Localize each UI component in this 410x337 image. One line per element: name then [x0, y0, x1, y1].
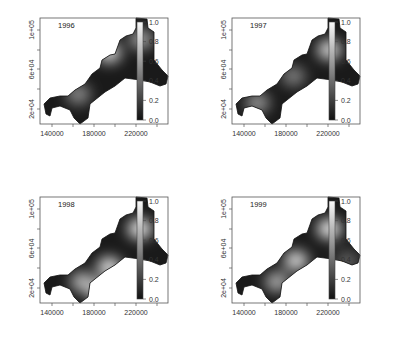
colorbar-tick-label: 0.2: [341, 276, 351, 283]
heatmap-region: [40, 18, 168, 124]
y-tick-label: 6e+04: [220, 60, 227, 80]
year-label: 1998: [58, 200, 75, 209]
y-tick-label: 6e+04: [220, 239, 227, 259]
colorbar-tick-label: 1.0: [341, 198, 351, 205]
y-tick-label: 6e+04: [28, 239, 35, 259]
y-tick-label: 2e+04: [28, 278, 35, 298]
y-tick-label: 1e+05: [220, 199, 227, 219]
colorbar-tick-label: 1.0: [341, 19, 351, 26]
y-tick-label: 1e+05: [220, 20, 227, 40]
colorbar: [137, 22, 143, 120]
x-tick-label: 140000: [232, 309, 255, 316]
x-tick-label: 180000: [274, 130, 297, 137]
colorbar-tick-label: 0.6: [149, 237, 159, 244]
colorbar-tick-label: 0.0: [149, 117, 159, 124]
colorbar-tick-label: 0.8: [149, 217, 159, 224]
colorbar-tick-label: 0.4: [149, 77, 159, 84]
colorbar-tick-label: 0.6: [149, 58, 159, 65]
heatmap-region: [40, 197, 168, 303]
colorbar-tick-label: 0.2: [149, 97, 159, 104]
colorbar-tick-label: 0.0: [149, 296, 159, 303]
colorbar-tick-label: 0.4: [341, 256, 351, 263]
y-tick-label: 2e+04: [220, 278, 227, 298]
year-label: 1996: [58, 21, 75, 30]
colorbar-tick-label: 0.6: [341, 58, 351, 65]
colorbar: [329, 201, 335, 299]
x-tick-label: 220000: [124, 309, 147, 316]
colorbar-tick-label: 0.2: [341, 97, 351, 104]
map-panel-1998: 19981400001800002200001e+056e+042e+040.0…: [0, 179, 205, 337]
x-tick-label: 180000: [82, 309, 105, 316]
map-panel-1999: 19991400001800002200001e+056e+042e+040.0…: [192, 179, 397, 337]
y-tick-label: 1e+05: [28, 199, 35, 219]
colorbar-tick-label: 0.0: [341, 296, 351, 303]
colorbar-tick-label: 0.8: [149, 38, 159, 45]
colorbar-tick-label: 0.6: [341, 237, 351, 244]
colorbar-tick-label: 0.4: [149, 256, 159, 263]
x-tick-label: 140000: [40, 130, 63, 137]
colorbar-tick-label: 0.2: [149, 276, 159, 283]
colorbar-tick-label: 1.0: [149, 19, 159, 26]
heatmap-region: [232, 197, 360, 303]
heatmap-region: [232, 18, 360, 124]
year-label: 1997: [250, 21, 267, 30]
map-panel-1996: 19961400001800002200001e+056e+042e+040.0…: [0, 0, 205, 168]
y-tick-label: 1e+05: [28, 20, 35, 40]
x-tick-label: 220000: [124, 130, 147, 137]
x-tick-label: 180000: [274, 309, 297, 316]
y-tick-label: 2e+04: [28, 99, 35, 119]
x-tick-label: 220000: [316, 130, 339, 137]
colorbar-tick-label: 0.4: [341, 77, 351, 84]
y-tick-label: 2e+04: [220, 99, 227, 119]
colorbar: [137, 201, 143, 299]
x-tick-label: 180000: [82, 130, 105, 137]
x-tick-label: 220000: [316, 309, 339, 316]
colorbar: [329, 22, 335, 120]
colorbar-tick-label: 0.0: [341, 117, 351, 124]
map-panel-1997: 19971400001800002200001e+056e+042e+040.0…: [192, 0, 397, 168]
colorbar-tick-label: 1.0: [149, 198, 159, 205]
colorbar-tick-label: 0.8: [341, 38, 351, 45]
y-tick-label: 6e+04: [28, 60, 35, 80]
colorbar-tick-label: 0.8: [341, 217, 351, 224]
x-tick-label: 140000: [40, 309, 63, 316]
year-label: 1999: [250, 200, 267, 209]
x-tick-label: 140000: [232, 130, 255, 137]
